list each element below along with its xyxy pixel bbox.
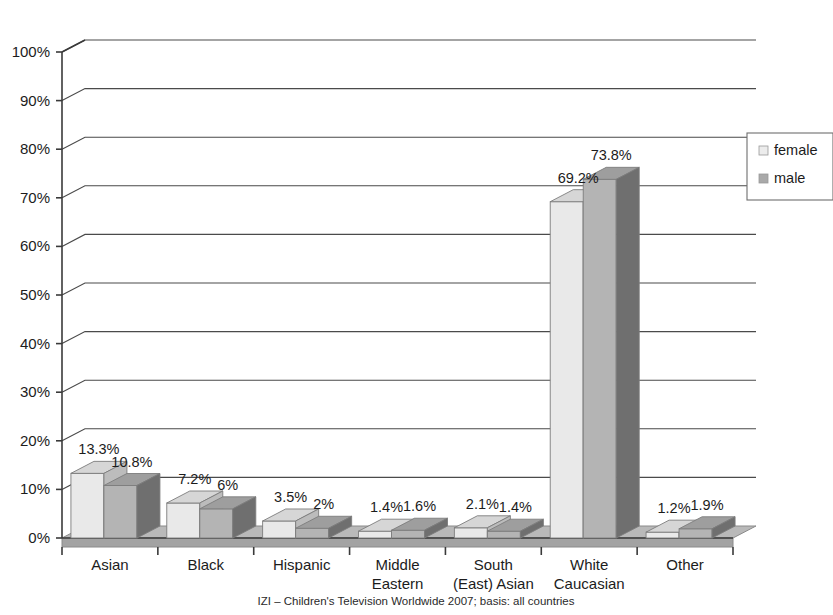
value-label-female-2: 3.5% [274, 489, 307, 505]
bar-front-face [646, 532, 679, 538]
ytick-label-20: 20% [20, 432, 50, 449]
gridline-50 [62, 283, 756, 295]
legend-label-male: male [774, 170, 805, 186]
bar-chart: 13.3%10.8%7.2%6%3.5%2%1.4%1.6%2.1%1.4%69… [0, 0, 833, 615]
bar-front-face [392, 530, 425, 538]
gridline-20 [62, 429, 756, 441]
ytick-label-50: 50% [20, 286, 50, 303]
ytick-label-70: 70% [20, 189, 50, 206]
bar-male-0 [104, 474, 160, 538]
category-label-1: Black [187, 556, 224, 573]
legend-swatch-male [759, 174, 768, 183]
gridline-100 [62, 40, 756, 52]
gridline-80 [62, 137, 756, 149]
value-label-male-1: 6% [217, 477, 238, 493]
ytick-label-40: 40% [20, 335, 50, 352]
value-label-male-5: 73.8% [591, 147, 632, 163]
bar-front-face [263, 521, 296, 538]
value-label-female-4: 2.1% [466, 496, 499, 512]
ytick-label-90: 90% [20, 92, 50, 109]
y-axis-depth-edge [62, 40, 85, 52]
category-label-4: South [474, 556, 513, 573]
bars-group [71, 167, 735, 538]
bar-male-5 [583, 167, 639, 538]
value-label-female-3: 1.4% [370, 499, 403, 515]
gridline-30 [62, 380, 756, 392]
category-label-2: Hispanic [273, 556, 331, 573]
bar-front-face [679, 529, 712, 538]
category-label-4: (East) Asian [453, 575, 534, 592]
value-label-female-6: 1.2% [658, 500, 691, 516]
bar-front-face [167, 503, 200, 538]
bar-front-face [71, 473, 104, 538]
value-label-male-0: 10.8% [111, 454, 152, 470]
caption-group: IZI – Children's Television Worldwide 20… [258, 595, 575, 607]
ytick-label-0: 0% [28, 529, 50, 546]
value-label-male-2: 2% [313, 496, 334, 512]
value-label-male-3: 1.6% [403, 498, 436, 514]
bar-front-face [296, 528, 329, 538]
ytick-label-80: 80% [20, 140, 50, 157]
gridline-40 [62, 332, 756, 344]
bar-front-face [359, 531, 392, 538]
ytick-label-100: 100% [12, 43, 50, 60]
gridline-70 [62, 186, 756, 198]
bar-front-face [104, 486, 137, 538]
bar-front-face [550, 202, 583, 538]
legend-group: femalemale [747, 133, 833, 200]
chart-container: 13.3%10.8%7.2%6%3.5%2%1.4%1.6%2.1%1.4%69… [0, 0, 833, 615]
bar-front-face [487, 531, 520, 538]
bar-front-face [583, 179, 616, 538]
legend-label-female: female [774, 142, 818, 158]
category-label-3: Eastern [372, 575, 424, 592]
category-label-0: Asian [91, 556, 129, 573]
category-label-5: Caucasian [554, 575, 625, 592]
bar-side-face [616, 167, 639, 538]
value-label-male-4: 1.4% [499, 499, 532, 515]
chart-caption: IZI – Children's Television Worldwide 20… [258, 595, 575, 607]
bar-front-face [454, 528, 487, 538]
category-label-3: Middle [375, 556, 419, 573]
value-label-female-5: 69.2% [558, 170, 599, 186]
bar-front-face [200, 509, 233, 538]
gridline-10 [62, 477, 756, 489]
category-label-5: White [570, 556, 608, 573]
ytick-label-60: 60% [20, 237, 50, 254]
value-label-female-1: 7.2% [178, 471, 211, 487]
legend-swatch-female [759, 146, 768, 155]
floor-front-face [62, 538, 733, 547]
ytick-label-30: 30% [20, 383, 50, 400]
ytick-label-10: 10% [20, 480, 50, 497]
gridlines-group [62, 40, 756, 489]
gridline-90 [62, 89, 756, 101]
value-label-male-6: 1.9% [691, 497, 724, 513]
category-label-6: Other [666, 556, 704, 573]
gridline-60 [62, 234, 756, 246]
category-labels-group: AsianBlackHispanicMiddleEasternSouth(Eas… [91, 556, 704, 592]
ytick-labels-group: 0%10%20%30%40%50%60%70%80%90%100% [12, 43, 50, 546]
